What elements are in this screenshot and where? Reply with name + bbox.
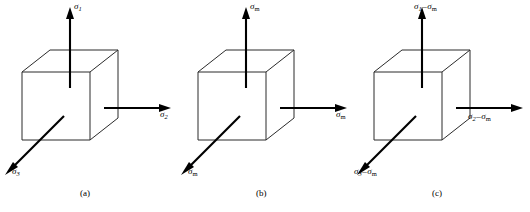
stress-panel-a: σ1 σ2 σ3 (a) [0, 0, 176, 212]
cube-diagram-a [0, 0, 176, 212]
arrow-head-horizontal [511, 104, 523, 112]
stress-label-diagonal-a: σ3 [12, 167, 20, 176]
stress-label-right-c: σ2–σm [468, 112, 491, 121]
stress-label-right-b: σm [336, 110, 346, 119]
stress-panel-c: σ1–σm σ2–σm σ3–σm (c) [352, 0, 528, 212]
stress-label-diagonal-c: σ3–σm [354, 167, 377, 176]
panel-caption-a: (a) [80, 188, 90, 198]
panel-caption-c: (c) [432, 188, 442, 198]
cube-front-face [22, 72, 90, 140]
stress-label-top-b: σm [250, 2, 260, 11]
stress-label-top-c: σ1–σm [414, 2, 437, 11]
panel-caption-b: (b) [256, 188, 267, 198]
cube-diagram-b [176, 0, 352, 212]
stress-label-right-a: σ2 [160, 110, 168, 119]
stress-label-top-a: σ1 [74, 2, 82, 11]
cube-front-face [374, 72, 442, 140]
stress-label-diagonal-b: σm [188, 167, 198, 176]
stress-decomposition-figure: σ1 σ2 σ3 (a) σm σm σm (b) [0, 0, 530, 212]
cube-front-face [198, 72, 266, 140]
arrow-head-vertical [66, 7, 74, 19]
arrow-head-vertical [242, 7, 250, 19]
stress-panel-b: σm σm σm (b) [176, 0, 352, 212]
cube-diagram-c [352, 0, 528, 212]
